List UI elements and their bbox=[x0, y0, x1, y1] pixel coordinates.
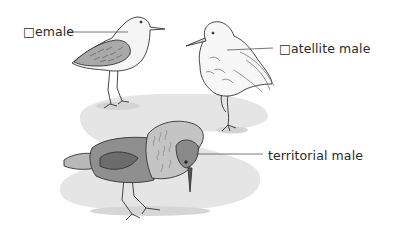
ruff-illustration: □emale □atellite male territorial male bbox=[0, 0, 393, 239]
territorial-male-label: territorial male bbox=[268, 148, 363, 163]
female-label: □emale bbox=[23, 24, 74, 39]
satellite-male-label: □atellite male bbox=[279, 41, 370, 56]
